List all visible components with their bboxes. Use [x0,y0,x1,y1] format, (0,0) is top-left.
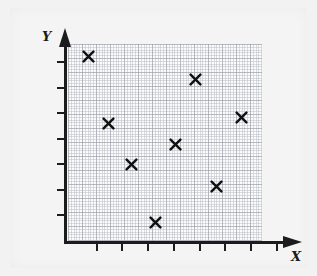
y-axis-label: Y [42,30,51,43]
x-axis-tick [276,243,278,251]
x-axis-tick [96,243,98,251]
y-axis-tick [57,189,65,191]
y-axis-tick [57,112,65,114]
y-axis-tick [57,61,65,63]
y-axis-arrow-icon [59,28,71,47]
x-axis-tick [121,243,123,251]
y-axis-tick [57,138,65,140]
y-axis-tick [57,214,65,216]
y-axis-tick [57,163,65,165]
chart-plot-area: Y X [0,0,317,276]
x-axis-arrow-icon [283,236,302,248]
x-axis-tick [224,243,226,251]
y-axis-line [64,46,67,242]
grid-panel [68,44,262,242]
y-axis-tick [57,87,65,89]
x-axis-tick [250,243,252,251]
x-axis-tick [199,243,201,251]
x-axis-tick [173,243,175,251]
x-axis-label: X [291,250,301,263]
scatter-plot-screenshot: Y X [0,0,317,276]
x-axis-tick [147,243,149,251]
